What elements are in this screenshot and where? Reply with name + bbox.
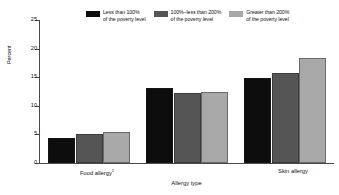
x-category-label: Food allergy1 [37, 168, 157, 176]
bar [201, 92, 228, 163]
legend-label-below-100-line1: Less than 100% [103, 9, 140, 15]
legend-label-100-to-200-line1: 100%–less than 200% [171, 9, 222, 15]
x-axis-label: Allergy type [39, 180, 334, 186]
bar [299, 58, 326, 163]
x-axis-line [39, 163, 334, 164]
legend-swatch-above-200 [229, 11, 243, 17]
bar [76, 134, 103, 163]
y-axis-label: Percent [6, 45, 12, 64]
y-tick-label: 5 [34, 130, 37, 137]
x-category-label: Skin allergy [233, 168, 339, 174]
bar-group-respiratory-allergy: Respiratory allergy2 [244, 20, 326, 163]
bar-group-skin-allergy: Skin allergy [146, 20, 228, 163]
legend-swatch-100-to-200 [154, 11, 168, 17]
plot-area: 0510152025 Food allergy1Skin allergyResp… [39, 20, 334, 163]
bar [174, 93, 201, 163]
y-tick-label: 10 [31, 102, 37, 109]
y-tick-label: 20 [31, 45, 37, 52]
bar [244, 78, 271, 163]
y-tick-label: 0 [34, 159, 37, 166]
legend-swatch-below-100 [86, 11, 100, 17]
bar [48, 138, 75, 163]
bar-group-food-allergy: Food allergy1 [48, 20, 130, 163]
bar-chart: Less than 100% of the poverty level 100%… [0, 0, 339, 195]
bar [272, 73, 299, 163]
bar [103, 132, 130, 163]
legend-label-above-200-line1: Greater than 200% [246, 9, 289, 15]
y-tick-label: 15 [31, 73, 37, 80]
bar-groups: Food allergy1Skin allergyRespiratory all… [40, 20, 334, 163]
y-tick-label: 25 [31, 16, 37, 23]
bar [146, 88, 173, 163]
